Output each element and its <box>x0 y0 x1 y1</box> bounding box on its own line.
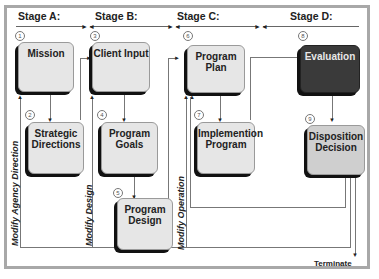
stage-d-label: Stage D: <box>290 10 333 22</box>
connector-6-7 <box>220 92 221 120</box>
stage-c-span <box>176 26 258 27</box>
node-9-number: 9 <box>305 114 315 124</box>
node-evaluation: Evaluation <box>300 45 360 93</box>
node-6-number: 6 <box>183 31 193 41</box>
connector-7-8-h <box>250 57 300 58</box>
feedback-operation-line <box>186 97 187 247</box>
stage-boundary-arrow-icon: ►◄ <box>167 23 181 30</box>
node-2-number: 2 <box>25 110 35 120</box>
stage-a-label: Stage A: <box>18 10 60 22</box>
feedback-operation-inner-line <box>190 97 191 207</box>
stage-boundary-arrow-icon: ►◄ <box>254 23 268 30</box>
node-5-number: 5 <box>113 188 123 198</box>
connector-2-3 <box>80 58 81 120</box>
node-strategic-directions: Strategic Directions <box>28 122 84 174</box>
modify-agency-direction-label: Modify Agency Direction <box>10 141 20 246</box>
node-1-number: 1 <box>15 31 25 41</box>
node-implemention-program: Implemention Program <box>197 122 255 174</box>
stage-c-label: Stage C: <box>177 10 220 22</box>
arrow-down-icon: ▼ <box>329 117 335 123</box>
stage-d-span <box>263 26 359 27</box>
node-7-number: 7 <box>194 110 204 120</box>
stage-b-label: Stage B: <box>95 10 138 22</box>
stage-a-span <box>16 26 84 27</box>
stage-b-span <box>90 26 170 27</box>
arrow-down-icon: ▼ <box>352 252 358 258</box>
modify-operation-label: Modify Operation <box>176 176 186 250</box>
connector-3-4 <box>124 92 125 120</box>
arrow-up-icon: ▲▲ <box>183 94 195 100</box>
connector-7-8 <box>250 57 251 120</box>
node-program-design: Program Design <box>117 198 173 250</box>
node-client-input: Client Input <box>92 42 150 92</box>
stage-boundary-arrow-icon: ►◄ <box>81 23 95 30</box>
modify-design-label: Modify Design <box>84 184 94 246</box>
node-disposition-decision: Disposition Decision <box>307 125 365 175</box>
arrow-right-icon: ► <box>174 55 180 61</box>
node-program-goals: Program Goals <box>101 122 158 174</box>
node-mission: Mission <box>18 42 74 92</box>
arrow-up-icon: ▲ <box>89 94 95 100</box>
feedback-inner-bottom-line <box>190 207 345 208</box>
node-4-number: 4 <box>97 110 107 120</box>
node-8-number: 8 <box>298 31 308 41</box>
node-program-plan: Program Plan <box>187 45 245 93</box>
terminate-label: Terminate <box>314 259 352 268</box>
connector-8-9 <box>332 92 333 120</box>
feedback-agency-line <box>20 97 21 247</box>
connector-5-6 <box>168 58 169 200</box>
arrow-up-icon: ▲ <box>17 94 23 100</box>
node-3-number: 3 <box>90 31 100 41</box>
connector-1-2 <box>50 92 51 120</box>
